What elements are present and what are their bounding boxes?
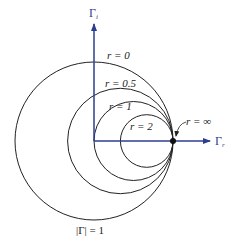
r-infinity-pointer-arrow [176,122,186,136]
smith-chart-diagram: Γi Γr r = 0 r = 0.5 r = 1 r = 2 r = ∞ |Γ… [0,0,235,241]
label-r-infinity: r = ∞ [186,115,211,127]
label-r-1: r = 1 [109,100,132,112]
r-infinity-point [170,138,176,144]
label-r-2: r = 2 [130,120,153,132]
label-r-0.5: r = 0.5 [105,77,136,89]
gamma-r-label: Γr [215,134,225,149]
label-unit-circle: |Γ| = 1 [76,224,104,236]
gamma-i-label: Γi [89,6,98,21]
label-r-0: r = 0 [107,49,130,61]
